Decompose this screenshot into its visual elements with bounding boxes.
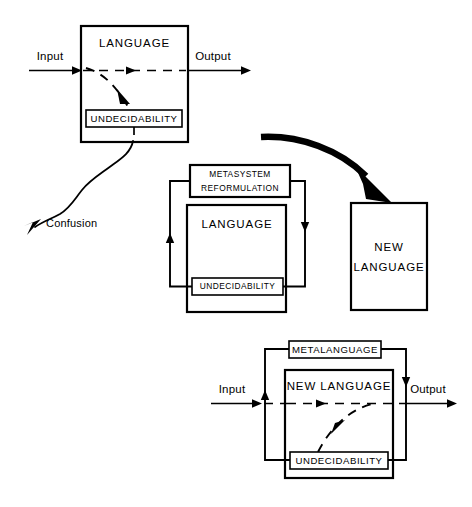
stage-three-convergence-curve: [318, 404, 372, 452]
new-language-result-group: NEW LANGUAGE: [351, 203, 427, 310]
new-language-result-label-line-1: NEW: [374, 241, 404, 253]
diagram-svg: LANGUAGE UNDECIDABILITY Input Output Con…: [0, 0, 472, 507]
metalanguage-label: METALANGUAGE: [292, 344, 378, 355]
stage-two-group: METASYSTEM REFORMULATION LANGUAGE UNDECI…: [166, 165, 309, 312]
confusion-label: Confusion: [46, 217, 97, 229]
stage-one-internal-path: [83, 66, 186, 74]
new-language-result-label-line-2: LANGUAGE: [353, 261, 424, 273]
stage-three-language-label: NEW LANGUAGE: [287, 380, 392, 392]
stage-one-output-arrow: [188, 66, 251, 75]
stage-one-input-label: Input: [37, 50, 64, 62]
diagram-canvas: LANGUAGE UNDECIDABILITY Input Output Con…: [0, 0, 472, 507]
stage-three-input-label: Input: [219, 383, 246, 395]
metasystem-label-line-1: METASYSTEM: [209, 169, 271, 179]
new-language-result-box: [351, 203, 427, 310]
stage-one-input-arrow: [29, 66, 82, 75]
stage-one-output-label: Output: [195, 50, 231, 62]
stage-three-group: METALANGUAGE NEW LANGUAGE UNDECIDABILITY…: [211, 341, 457, 478]
stage-two-language-label: LANGUAGE: [201, 218, 272, 230]
stage-one-group: LANGUAGE UNDECIDABILITY Input Output Con…: [24, 26, 251, 235]
stage-three-internal-path: [287, 399, 405, 407]
stage-three-output-arrow: [405, 399, 457, 408]
stage-three-undecidability-label: UNDECIDABILITY: [295, 455, 382, 466]
stage-one-undecidability-label: UNDECIDABILITY: [90, 113, 177, 124]
stage-two-undecidability-label: UNDECIDABILITY: [200, 281, 276, 291]
stage-three-input-arrow: [211, 399, 262, 408]
stage-one-divergence-curve: [86, 68, 130, 111]
stage-three-output-label: Output: [410, 383, 446, 395]
metasystem-transition-arrow: [261, 137, 392, 203]
metasystem-label-line-2: REFORMULATION: [201, 183, 279, 193]
stage-one-language-label: LANGUAGE: [99, 37, 170, 49]
stage-three-right-feedback-loop: [381, 349, 410, 460]
